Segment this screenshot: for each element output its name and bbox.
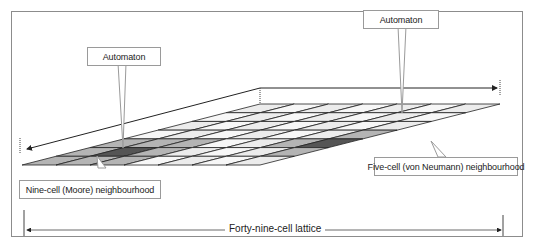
moore-neighbourhood-label: Nine-cell (Moore) neighbourhood [26, 185, 154, 195]
von-neumann-neighbourhood-callout: Five-cell (von Neumann) neighbourhood [374, 157, 518, 176]
automaton-label-left: Automaton [103, 52, 146, 62]
moore-neighbourhood-callout: Nine-cell (Moore) neighbourhood [19, 180, 161, 199]
von-neumann-neighbourhood-label: Five-cell (von Neumann) neighbourhood [368, 162, 525, 172]
automaton-callout-right: Automaton [363, 10, 439, 29]
forty-nine-cell-lattice [22, 104, 500, 165]
lattice-diagram [0, 0, 533, 246]
width-arrow-right [260, 80, 500, 104]
automaton-callout-left: Automaton [87, 47, 161, 66]
automaton-label-right: Automaton [380, 15, 423, 25]
lattice-dimension-label: Forty-nine-cell lattice [225, 223, 325, 234]
